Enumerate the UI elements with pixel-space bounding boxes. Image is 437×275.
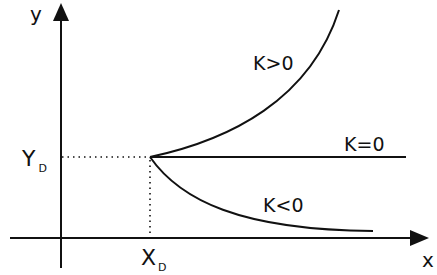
y-axis-arrow-icon — [53, 3, 69, 21]
xd-label: XD — [141, 247, 165, 269]
x-axis-label: x — [422, 250, 434, 270]
xd-main: X — [141, 245, 156, 270]
curve-k-positive — [150, 10, 339, 157]
yd-main: Y — [22, 146, 35, 171]
label-k-positive: K>0 — [253, 54, 293, 73]
curve-k-negative — [150, 157, 373, 231]
yd-subscript: D — [38, 162, 46, 175]
label-k-negative: K<0 — [263, 196, 303, 215]
x-axis-arrow-icon — [410, 230, 429, 246]
y-axis-label: y — [30, 4, 42, 24]
yd-label: YD — [22, 148, 44, 170]
label-k-zero: K=0 — [344, 135, 384, 154]
xd-subscript: D — [158, 261, 166, 274]
